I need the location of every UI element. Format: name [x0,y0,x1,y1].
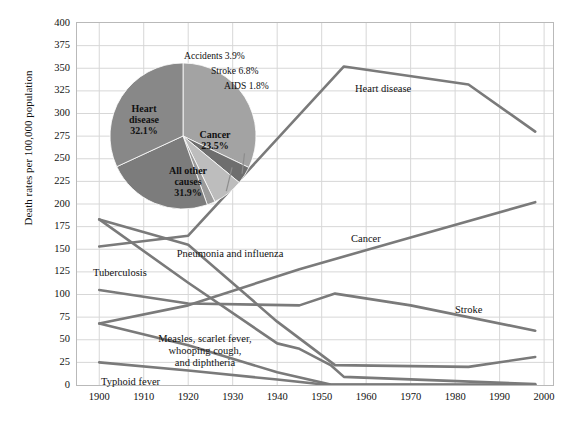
x-tick-1990: 1990 [478,392,522,403]
pie-chart: Heartdisease32.1%Cancer23.5%All othercau… [100,55,300,215]
x-tick-1920: 1920 [166,392,210,403]
y-tick-25: 25 [40,357,70,368]
y-tick-175: 175 [40,221,70,232]
y-axis-title: Death rates per 100,000 population [22,28,34,268]
y-tick-275: 275 [40,131,70,142]
series-label-measles-scarlet-fever-whooping-cough-and-diphtheria: Measles, scarlet fever,whooping cough,an… [115,333,295,368]
pie-callout-accidents: Accidents 3.9% [184,51,245,62]
series-label-typhoid-fever: Typhoid fever [101,376,160,388]
y-tick-250: 250 [40,153,70,164]
y-tick-350: 350 [40,63,70,74]
series-label-heart-disease: Heart disease [355,83,411,95]
y-tick-400: 400 [40,18,70,29]
x-tick-1980: 1980 [433,392,477,403]
x-tick-1940: 1940 [255,392,299,403]
y-tick-200: 200 [40,199,70,210]
y-tick-300: 300 [40,108,70,119]
x-tick-1970: 1970 [389,392,433,403]
y-tick-75: 75 [40,312,70,323]
series-label-tuberculosis: Tuberculosis [93,267,147,279]
y-tick-125: 125 [40,266,70,277]
y-tick-325: 325 [40,85,70,96]
chart-figure: Death rates per 100,000 population 40037… [0,0,577,428]
y-tick-0: 0 [40,380,70,391]
pie-callout-stroke: Stroke 6.8% [211,66,258,77]
x-tick-1900: 1900 [77,392,121,403]
x-tick-2000: 2000 [522,392,566,403]
series-label-stroke: Stroke [455,304,482,316]
x-tick-1960: 1960 [344,392,388,403]
y-tick-375: 375 [40,40,70,51]
x-tick-1950: 1950 [300,392,344,403]
x-tick-1930: 1930 [211,392,255,403]
x-tick-1910: 1910 [122,392,166,403]
series-label-cancer: Cancer [351,233,381,245]
y-tick-150: 150 [40,244,70,255]
y-tick-50: 50 [40,334,70,345]
pie-callout-aids: AIDS 1.8% [224,81,269,92]
pie-label-all-other-causes: All othercauses31.9% [143,165,233,199]
series-label-pneumonia-and-influenza: Pneumonia and influenza [140,248,320,260]
y-tick-100: 100 [40,289,70,300]
y-tick-225: 225 [40,176,70,187]
pie-label-cancer: Cancer23.5% [170,129,260,151]
